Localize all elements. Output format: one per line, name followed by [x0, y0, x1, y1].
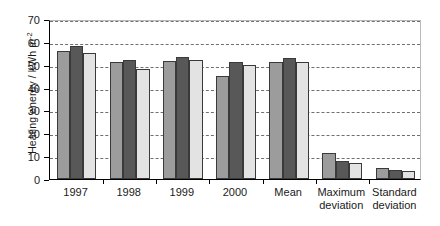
bar — [283, 58, 296, 179]
bar — [216, 76, 229, 179]
bar — [70, 46, 83, 179]
x-axis-tick-label: 1999 — [155, 186, 208, 199]
bar — [136, 69, 149, 179]
y-axis-tick-label: 70 — [18, 15, 40, 26]
x-axis-tick-mark — [209, 179, 210, 184]
bar — [110, 62, 123, 179]
plot-area — [49, 20, 421, 180]
y-axis-tick-label: 10 — [18, 152, 40, 163]
x-axis-tick-label: 1997 — [49, 186, 102, 199]
y-axis-tick-label: 40 — [18, 83, 40, 94]
y-axis-tick-mark — [44, 180, 49, 181]
y-axis-tick-label: 20 — [18, 129, 40, 140]
x-axis-tick-label: 1998 — [102, 186, 155, 199]
y-axis-tick-label: 60 — [18, 37, 40, 48]
bar — [296, 62, 309, 179]
x-axis-tick-mark — [369, 179, 370, 184]
x-axis-tick-mark — [316, 179, 317, 184]
x-axis-tick-mark — [263, 179, 264, 184]
bars-layer — [50, 21, 420, 179]
bar — [189, 60, 202, 179]
bar — [402, 171, 415, 179]
x-axis-tick-label: Maximum deviation — [315, 186, 368, 212]
x-axis-tick-label: Mean — [262, 186, 315, 199]
y-axis-tick-label: 50 — [18, 60, 40, 71]
bar — [83, 53, 96, 179]
bar — [349, 163, 362, 179]
bar — [243, 65, 256, 179]
y-axis-tick-label: 0 — [18, 175, 40, 186]
x-axis-tick-mark — [103, 179, 104, 184]
x-axis-tick-mark — [156, 179, 157, 184]
x-axis-tick-label: Standard deviation — [368, 186, 421, 212]
bar — [389, 170, 402, 179]
bar — [123, 60, 136, 179]
y-axis-tick-labels: 010203040506070 — [16, 0, 40, 226]
bar — [322, 153, 335, 179]
x-axis-tick-labels: 1997199819992000MeanMaximum deviationSta… — [49, 186, 421, 226]
bar — [176, 57, 189, 179]
bar — [336, 161, 349, 179]
bar — [163, 61, 176, 179]
y-axis-tick-label: 30 — [18, 106, 40, 117]
bar-chart: Heating energy / kWh m-2 010203040506070… — [0, 0, 440, 226]
x-axis-tick-label: 2000 — [208, 186, 261, 199]
bar — [57, 51, 70, 179]
bar — [376, 168, 389, 179]
bar — [269, 62, 282, 179]
bar — [229, 62, 242, 179]
